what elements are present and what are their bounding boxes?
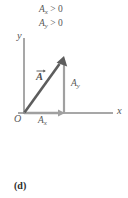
condition-ay-value: 0	[58, 18, 63, 28]
component-ay-label-subscript: y	[77, 82, 80, 90]
origin-point	[23, 112, 25, 114]
origin-label: O	[14, 114, 21, 124]
vector-arrow-overbar-icon	[36, 68, 46, 73]
component-ax-label-subscript: x	[44, 119, 47, 127]
x-axis-label: x	[117, 106, 122, 117]
component-ay-label: Ay	[71, 79, 80, 90]
condition-ax: Ax > 0	[39, 4, 103, 18]
y-axis-label: y	[17, 31, 22, 42]
condition-annotations: Ax > 0 Ay > 0	[39, 4, 103, 32]
component-ax-label: Ax	[38, 116, 47, 127]
vector-a-label: A	[36, 72, 43, 83]
figure-caption: (d)	[14, 180, 26, 191]
vector-components-figure: Ax > 0 Ay > 0 y x O Ax Ay A (d)	[0, 0, 128, 198]
condition-ax-value: 0	[58, 4, 63, 14]
condition-ay: Ay > 0	[39, 18, 103, 32]
